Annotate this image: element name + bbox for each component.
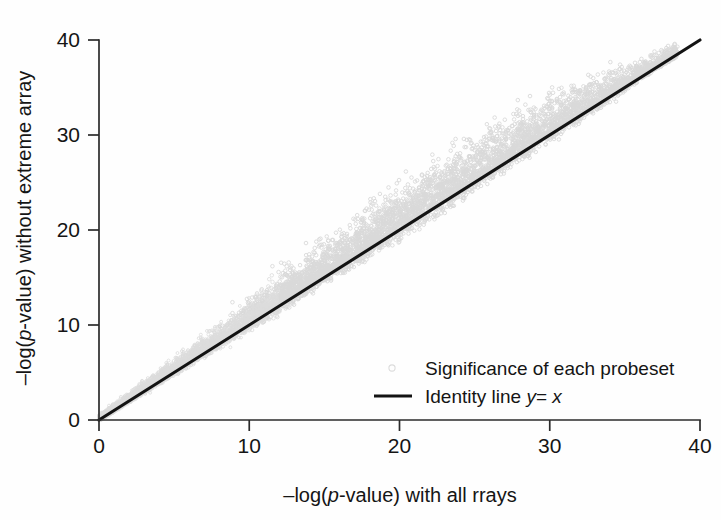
scatter-point	[429, 167, 433, 171]
scatter-point	[551, 91, 555, 95]
scatter-point	[493, 116, 497, 120]
scatter-point	[325, 235, 329, 239]
scatter-point	[406, 183, 410, 187]
scatter-point	[389, 194, 393, 198]
scatter-point	[413, 229, 417, 233]
x-tick-label: 30	[538, 434, 561, 457]
scatter-point	[524, 103, 528, 107]
scatter-point	[395, 182, 399, 186]
scatter-point	[285, 265, 289, 269]
x-axis-ticks: 010203040	[93, 420, 712, 457]
scatter-point	[431, 159, 435, 163]
scatter-point	[220, 320, 223, 323]
scatter-point	[391, 244, 395, 248]
scatter-point	[418, 228, 422, 232]
y-axis-title: –log(p-value) without extreme array	[13, 71, 35, 386]
scatter-plot: 010203040 010203040 –log(p-value) with a…	[0, 0, 721, 520]
scatter-point	[334, 231, 338, 235]
scatter-point	[485, 122, 489, 126]
scatter-point	[229, 346, 232, 349]
scatter-point	[653, 50, 657, 54]
scatter-point	[403, 186, 407, 190]
scatter-point	[516, 98, 520, 102]
y-tick-label: 30	[57, 123, 80, 146]
scatter-point	[304, 241, 308, 245]
legend-label-scatter: Significance of each probeset	[425, 358, 675, 379]
scatter-point	[338, 228, 342, 232]
x-tick-label: 0	[93, 434, 105, 457]
scatter-point	[512, 118, 516, 122]
x-tick-label: 40	[688, 434, 711, 457]
scatter-point	[394, 189, 398, 193]
y-tick-label: 40	[57, 28, 80, 51]
scatter-point	[267, 277, 271, 281]
x-tick-label: 20	[388, 434, 411, 457]
y-tick-label: 20	[57, 218, 80, 241]
figure-container: 010203040 010203040 –log(p-value) with a…	[0, 0, 721, 520]
y-tick-label: 10	[57, 313, 80, 336]
scatter-point	[567, 126, 571, 129]
scatter-point	[614, 100, 618, 104]
scatter-point	[447, 158, 451, 162]
legend-label-identity: Identity line y= x	[425, 386, 563, 407]
scatter-point	[558, 95, 562, 99]
scatter-point	[404, 170, 408, 174]
scatter-point	[596, 73, 600, 77]
scatter-point	[271, 264, 275, 268]
x-axis-title: –log(p-value) with all rrays	[283, 484, 516, 506]
scatter-point	[387, 186, 391, 190]
scatter-point	[378, 192, 382, 196]
scatter-point	[287, 261, 291, 265]
scatter-point	[431, 153, 435, 157]
scatter-point	[231, 300, 235, 304]
scatter-point	[657, 51, 661, 55]
scatter-point	[410, 176, 414, 180]
scatter-point	[638, 60, 642, 64]
scatter-point	[176, 352, 179, 355]
scatter-point	[355, 213, 359, 217]
scatter-point	[528, 94, 532, 98]
x-tick-label: 10	[238, 434, 261, 457]
scatter-point	[407, 232, 411, 236]
scatter-point	[449, 149, 453, 153]
scatter-point	[354, 222, 358, 226]
scatter-point	[271, 280, 275, 284]
scatter-point	[199, 333, 202, 336]
scatter-point	[167, 359, 170, 362]
scatter-point	[494, 129, 498, 133]
scatter-point	[609, 60, 613, 64]
scatter-point	[503, 118, 507, 122]
scatter-point	[486, 182, 490, 186]
scatter-point	[238, 304, 241, 307]
scatter-point	[602, 71, 606, 75]
scatter-point	[437, 157, 441, 161]
scatter-point	[525, 120, 529, 124]
legend-scatter-marker	[389, 365, 395, 371]
scatter-point	[270, 274, 274, 278]
scatter-point	[374, 204, 378, 208]
y-axis-ticks: 010203040	[57, 28, 99, 431]
scatter-point	[394, 193, 398, 197]
y-tick-label: 0	[68, 408, 80, 431]
scatter-point	[298, 263, 302, 267]
scatter-point	[572, 84, 576, 88]
scatter-point	[454, 137, 458, 141]
scatter-point	[452, 144, 456, 148]
legend: Significance of each probeset Identity l…	[374, 358, 675, 407]
scatter-point	[207, 333, 210, 336]
scatter-point	[277, 270, 281, 274]
scatter-point	[550, 86, 554, 90]
scatter-point	[313, 246, 317, 250]
scatter-point	[557, 138, 561, 142]
